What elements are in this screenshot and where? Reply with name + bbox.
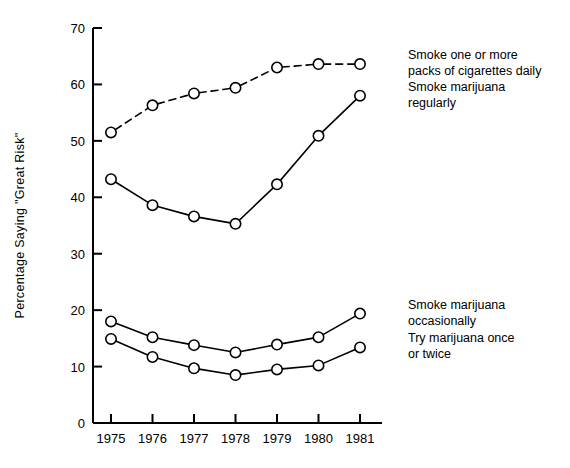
series-segment [323,316,355,335]
series-segment [199,217,230,223]
data-point-marker[interactable] [189,88,199,98]
series-segment [282,338,313,344]
y-axis: 010203040506070 [71,21,102,431]
data-point-marker[interactable] [272,179,282,189]
legend-label-line1: Smoke one or more [408,48,518,62]
series-segment [116,341,148,355]
data-point-marker[interactable] [106,316,116,326]
series-segment [115,108,148,129]
series-segment [323,349,355,363]
series-segment [158,338,189,344]
series-segment [280,140,315,181]
series-segment [158,358,189,367]
data-point-marker[interactable] [355,342,365,352]
data-point-marker[interactable] [313,131,323,141]
data-point-marker[interactable] [313,59,323,69]
data-point-marker[interactable] [106,334,116,344]
data-point-marker[interactable] [355,308,365,318]
x-tick-label: 1979 [263,431,292,446]
data-point-marker[interactable] [147,200,157,210]
chart-container: 010203040506070 197519761977197819791980… [0,0,570,468]
x-tick-label: 1981 [346,431,375,446]
data-point-marker[interactable] [230,370,240,380]
series-2 [106,91,365,229]
data-point-marker[interactable] [313,332,323,342]
series-segment [282,65,313,68]
series-segment [199,346,230,352]
x-axis: 1975197619771978197919801981 [93,414,382,446]
series-segment [322,99,356,132]
x-tick-label: 1978 [221,431,250,446]
y-axis-title-text: Percentage Saying "Great Risk" [13,132,27,318]
legend-label-line1: Try marijuana once [408,331,515,345]
legend-label-line2: occasionally [408,314,477,328]
y-tick-label: 30 [71,247,85,262]
data-series-group [106,59,365,380]
data-point-marker[interactable] [355,59,365,69]
y-tick-label: 70 [71,21,85,36]
data-point-marker[interactable] [106,127,116,137]
data-point-marker[interactable] [230,347,240,357]
y-tick-label: 40 [71,190,85,205]
series-1 [106,59,365,138]
data-point-marker[interactable] [272,364,282,374]
legend-label-line2: packs of cigarettes daily [408,64,542,78]
data-point-marker[interactable] [147,332,157,342]
legend-label-line1: Smoke marijuana [408,80,505,94]
data-point-marker[interactable] [272,339,282,349]
data-point-marker[interactable] [106,174,116,184]
series-segment [158,95,189,104]
legend-entry-1: Smoke one or morepacks of cigarettes dai… [408,48,542,78]
data-point-marker[interactable] [313,360,323,370]
legend-label-line1: Smoke marijuana [408,298,505,312]
x-tick-label: 1977 [180,431,209,446]
y-tick-label: 60 [71,77,85,92]
y-tick-label: 20 [71,303,85,318]
data-point-marker[interactable] [147,352,157,362]
series-segment [241,346,272,352]
series-segment [199,369,230,374]
legend-label-line2: regularly [408,96,457,110]
data-point-marker[interactable] [230,83,240,93]
data-point-marker[interactable] [189,211,199,221]
x-tick-label: 1980 [304,431,333,446]
series-segment [240,70,272,86]
series-segment [282,366,313,369]
x-tick-label: 1976 [138,431,167,446]
line-chart: 010203040506070 197519761977197819791980… [0,0,570,468]
y-axis-title: Percentage Saying "Great Risk" [13,132,27,318]
data-point-marker[interactable] [355,91,365,101]
data-point-marker[interactable] [272,62,282,72]
chart-legend: Smoke one or morepacks of cigarettes dai… [408,48,542,361]
series-segment [241,370,272,374]
series-segment [239,188,273,220]
series-segment [115,182,148,202]
data-point-marker[interactable] [189,363,199,373]
series-3 [106,308,365,357]
series-segment [116,323,148,335]
series-segment [158,207,189,216]
data-point-marker[interactable] [230,219,240,229]
y-tick-label: 0 [78,416,85,431]
y-tick-label: 50 [71,134,85,149]
y-tick-label: 10 [71,360,85,375]
legend-entry-2: Smoke marijuanaregularly [408,80,505,110]
legend-entry-3: Smoke marijuanaoccasionally [408,298,505,328]
legend-label-line2: or twice [408,347,451,361]
series-segment [199,89,230,93]
data-point-marker[interactable] [189,340,199,350]
legend-entry-4: Try marijuana onceor twice [408,331,515,361]
data-point-marker[interactable] [147,100,157,110]
x-tick-label: 1975 [97,431,126,446]
